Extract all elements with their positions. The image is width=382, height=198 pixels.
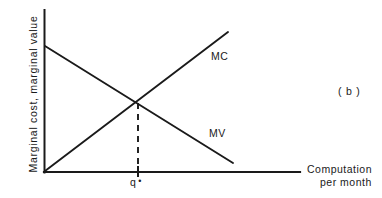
mv-curve bbox=[45, 46, 233, 163]
panel-label: ( b ) bbox=[338, 85, 361, 97]
mv-curve-label: MV bbox=[209, 127, 226, 139]
axes-group bbox=[44, 10, 300, 173]
x-axis-label: Computationper month bbox=[307, 163, 372, 189]
mc-curve bbox=[45, 32, 228, 171]
curves-group bbox=[45, 32, 233, 171]
y-axis-label: Marginal cost, marginal value bbox=[27, 9, 39, 179]
x-axis-label-line2: per month bbox=[307, 176, 372, 189]
q-star-tick-label: q• bbox=[130, 176, 142, 188]
q-star-symbol: • bbox=[136, 176, 142, 186]
economics-figure: Marginal cost, marginal value Computatio… bbox=[0, 0, 382, 198]
x-axis-label-line1: Computation bbox=[307, 163, 372, 175]
mc-curve-label: MC bbox=[211, 50, 229, 62]
